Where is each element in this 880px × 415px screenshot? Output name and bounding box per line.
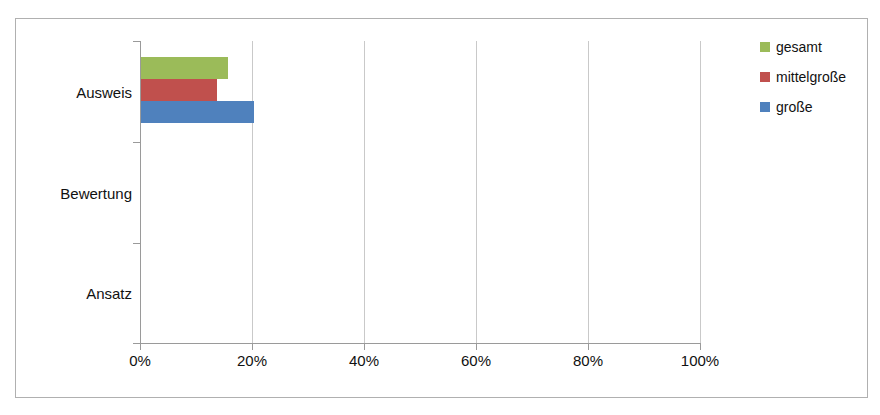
x-axis-label-0: 0%: [100, 352, 180, 369]
gridline-20: [252, 41, 253, 343]
gridline-40: [364, 41, 365, 343]
x-axis-label-80: 80%: [548, 352, 628, 369]
x-axis-label-40: 40%: [324, 352, 404, 369]
x-axis-label-100: 100%: [660, 352, 740, 369]
legend-swatch-grosse: [760, 102, 770, 112]
chart-figure: Ausweis Bewertung Ansatz 0% 20% 40% 60% …: [0, 0, 880, 415]
y-axis-tick-2: [133, 142, 140, 143]
legend-swatch-gesamt: [760, 42, 770, 52]
category-label-bewertung: Bewertung: [12, 185, 132, 202]
bar-ausweis-gesamt: [140, 57, 228, 79]
plot-area: [140, 41, 700, 343]
legend-label-mittelgrosse: mittelgroße: [776, 68, 846, 86]
x-axis-tick-80: [588, 343, 589, 350]
y-axis-tick-1: [133, 41, 140, 42]
category-axis-line: [140, 343, 700, 344]
x-axis-label-60: 60%: [436, 352, 516, 369]
gridline-80: [588, 41, 589, 343]
gridline-100: [700, 41, 701, 343]
x-axis-tick-100: [700, 343, 701, 350]
gridline-60: [476, 41, 477, 343]
category-label-ansatz: Ansatz: [12, 285, 132, 302]
x-axis-tick-60: [476, 343, 477, 350]
category-label-ausweis: Ausweis: [12, 84, 132, 101]
bar-ausweis-mittelgrosse: [140, 79, 217, 101]
x-axis-tick-0: [140, 343, 141, 350]
legend-label-gesamt: gesamt: [776, 38, 822, 56]
x-axis-tick-20: [252, 343, 253, 350]
legend-swatch-mittelgrosse: [760, 72, 770, 82]
bar-ausweis-grosse: [140, 101, 254, 123]
y-axis-tick-3: [133, 243, 140, 244]
value-axis-line: [140, 41, 141, 343]
x-axis-tick-40: [364, 343, 365, 350]
legend-label-grosse: große: [776, 98, 813, 116]
y-axis-tick-4: [133, 343, 140, 344]
x-axis-label-20: 20%: [212, 352, 292, 369]
